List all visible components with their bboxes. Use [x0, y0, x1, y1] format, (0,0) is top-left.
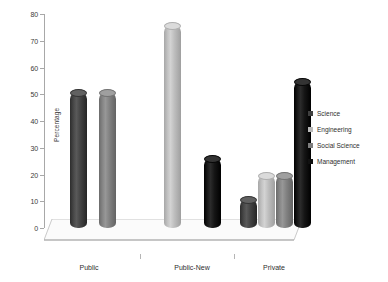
- legend-swatch-icon: [308, 159, 313, 164]
- bars-layer: [44, 14, 300, 228]
- y-axis-tick-label: 0: [34, 225, 38, 232]
- legend-item-label: Management: [317, 158, 355, 165]
- legend-item-engineering[interactable]: Engineering: [308, 126, 360, 133]
- legend-swatch-icon: [308, 111, 313, 116]
- y-axis-tick-label: 30: [30, 144, 38, 151]
- legend-item-label: Social Science: [317, 142, 360, 149]
- bar-cap: [99, 89, 116, 97]
- bar-private-engineering: [258, 175, 275, 229]
- legend-item-label: Engineering: [317, 126, 352, 133]
- y-axis-tick-label: 60: [30, 64, 38, 71]
- bar-private-science: [240, 199, 257, 228]
- bar-cap: [164, 22, 181, 30]
- bar-cap: [204, 155, 221, 163]
- bar-cap: [258, 172, 275, 180]
- y-axis-tick-label: 80: [30, 11, 38, 18]
- y-axis-tick-label: 50: [30, 91, 38, 98]
- y-axis-tick-label: 20: [30, 171, 38, 178]
- y-axis-tick-label: 10: [30, 198, 38, 205]
- bar-public-social-science: [99, 92, 116, 228]
- bar-private-social-science: [276, 175, 293, 229]
- y-axis-tick-label: 70: [30, 37, 38, 44]
- chart-legend: ScienceEngineeringSocial ScienceManageme…: [308, 110, 360, 165]
- legend-item-label: Science: [317, 110, 340, 117]
- legend-item-social-science[interactable]: Social Science: [308, 142, 360, 149]
- bar-cap: [276, 172, 293, 180]
- bar-cap: [294, 78, 311, 86]
- bar-public-science: [70, 92, 87, 228]
- y-axis-tick-label: 40: [30, 118, 38, 125]
- bar-cap: [70, 89, 87, 97]
- x-axis-label: Public-New: [174, 264, 209, 271]
- legend-item-management[interactable]: Management: [308, 158, 360, 165]
- x-axis-label: Private: [263, 264, 285, 271]
- bar-cap: [240, 196, 257, 204]
- x-axis-separator: [140, 254, 141, 259]
- legend-item-science[interactable]: Science: [308, 110, 360, 117]
- bar-public-new-management: [204, 158, 221, 228]
- legend-swatch-icon: [308, 143, 313, 148]
- x-axis-label: Public: [79, 264, 98, 271]
- legend-swatch-icon: [308, 127, 313, 132]
- x-axis-separator: [234, 254, 235, 259]
- bar-public-new-engineering: [164, 25, 181, 228]
- bar-chart: Percentage 01020304050607080 PublicPubli…: [0, 0, 388, 282]
- plot-area: Percentage 01020304050607080 PublicPubli…: [44, 14, 300, 242]
